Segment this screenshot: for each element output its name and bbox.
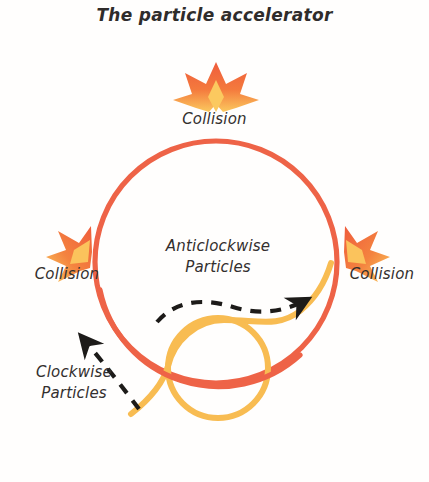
page-title: The particle accelerator [0, 5, 429, 25]
injector-feed-curve [131, 263, 331, 414]
label-clockwise-line2: Particles [10, 383, 138, 404]
label-clockwise-particles: Clockwise Particles [10, 362, 138, 404]
collision-star-top [173, 62, 259, 112]
label-clockwise-line1: Clockwise [10, 362, 138, 383]
injector-ring [168, 318, 268, 418]
label-anticlockwise-line2: Particles [134, 257, 302, 278]
label-anticlockwise-line1: Anticlockwise [134, 236, 302, 257]
label-anticlockwise-particles: Anticlockwise Particles [134, 236, 302, 278]
label-collision-top: Collision [0, 110, 429, 128]
label-collision-right: Collision [336, 265, 428, 283]
label-collision-left: Collision [12, 265, 122, 283]
diagram-canvas: The particle accelerator Collision Colli… [0, 0, 429, 482]
